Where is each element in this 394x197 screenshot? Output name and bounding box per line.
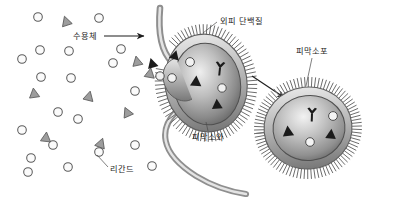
ligand-circle [67,74,76,83]
ligand-circle [186,58,195,67]
ligand-circle [37,73,46,82]
coat-protein-bristle [311,77,312,87]
ligand-circle [117,45,126,54]
ligand-circle [64,163,73,172]
ligand-circle [218,84,226,92]
ligand-circle [34,13,43,22]
ligand-circle [306,138,315,147]
label-coated-vesicle: 피막소포 [296,46,328,56]
ligand-circle [36,46,45,55]
coat-protein-bristle [304,169,305,179]
ligand-circle [95,14,104,23]
ligand-circle [27,154,36,163]
label-coat-protein: 외피 단백질 [220,16,263,26]
label-receptor: 수용체 [73,31,97,41]
label-ligand: 리간드 [110,164,134,174]
label-coated-pit: 피막소와 [192,132,224,142]
endocytosis-diagram: 수용체 외피 단백질 피막소포 피막소와 리간드 [0,0,394,197]
ligand-circle [24,168,33,177]
diagram-canvas: 수용체 외피 단백질 피막소포 피막소와 리간드 [0,0,394,197]
ligand-circle [95,148,104,157]
ligand-circle [18,126,27,135]
ligand-circle [131,87,140,96]
ligand-circle [109,59,118,68]
ligand-circle [18,55,27,64]
ligand-circle [156,72,164,80]
ligand-circle [74,115,83,124]
ligand-circle [54,108,63,117]
ligand-circle [131,141,140,150]
ligand-circle [65,47,74,56]
ligand-circle [148,162,157,171]
ligand-circle [329,112,338,121]
ligand-circle [168,74,177,83]
